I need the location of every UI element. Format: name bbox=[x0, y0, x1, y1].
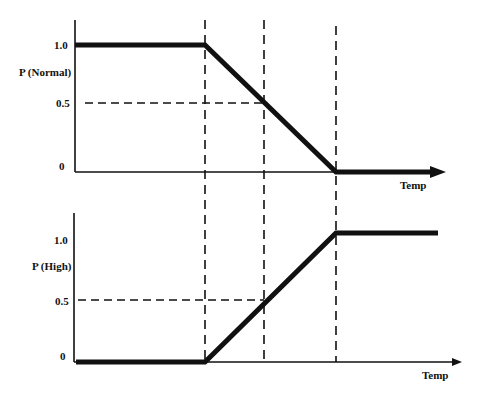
bottom-ylabel: P (High) bbox=[32, 260, 72, 273]
bottom-x-axis-arrow-icon bbox=[452, 358, 462, 366]
top-tick-0: 0 bbox=[59, 160, 65, 172]
bottom-tick-0: 0 bbox=[60, 350, 66, 362]
top-chart: 1.0 P (Normal) 0.5 0 Temp bbox=[19, 20, 446, 191]
bottom-high-curve bbox=[76, 233, 438, 362]
bottom-xlabel: Temp bbox=[422, 369, 449, 381]
top-ylabel: P (Normal) bbox=[19, 66, 72, 79]
top-tick-05: 0.5 bbox=[56, 97, 70, 109]
bottom-tick-1: 1.0 bbox=[54, 234, 68, 246]
top-xlabel: Temp bbox=[400, 179, 427, 191]
top-x-axis-arrow-icon bbox=[430, 166, 446, 178]
top-normal-curve bbox=[75, 45, 432, 172]
top-tick-1: 1.0 bbox=[54, 39, 68, 51]
bottom-tick-05: 0.5 bbox=[55, 295, 69, 307]
bottom-chart: 1.0 P (High) 0.5 0 Temp bbox=[32, 213, 462, 381]
membership-function-charts: 1.0 P (Normal) 0.5 0 Temp 1.0 P (High) 0… bbox=[0, 0, 484, 401]
